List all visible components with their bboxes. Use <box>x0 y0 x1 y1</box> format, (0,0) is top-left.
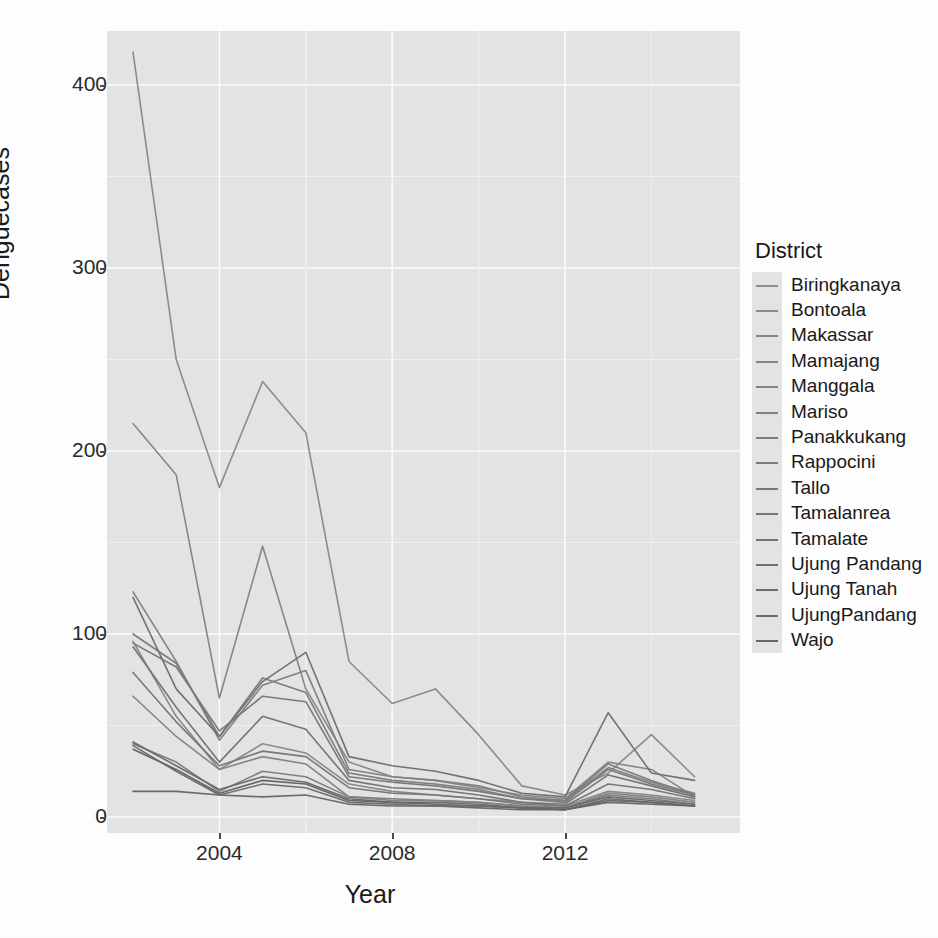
legend-line-icon <box>752 526 782 551</box>
legend-line-icon <box>752 374 782 399</box>
y-tick-mark <box>100 451 106 453</box>
x-axis-title: Year <box>0 880 740 909</box>
legend-line-icon <box>752 501 782 526</box>
legend-item[interactable]: Rappocini <box>752 450 938 475</box>
legend-item[interactable]: Mariso <box>752 399 938 424</box>
y-tick-label: 400 <box>0 72 121 96</box>
legend-item[interactable]: Tamalate <box>752 526 938 551</box>
legend-item-label: UjungPandang <box>791 604 917 626</box>
legend-item[interactable]: Biringkanaya <box>752 272 938 297</box>
legend-items: BiringkanayaBontoalaMakassarMamajangMang… <box>752 272 938 653</box>
legend-item[interactable]: Manggala <box>752 374 938 399</box>
chart-page: Denguecases 0100200300400 200420082012 Y… <box>0 0 938 938</box>
y-tick-mark <box>100 268 106 270</box>
legend-item-label: Bontoala <box>791 299 866 321</box>
legend-line-icon <box>752 272 782 297</box>
legend-item[interactable]: Mamajang <box>752 348 938 373</box>
legend-line-icon <box>752 627 782 652</box>
x-tick-mark <box>219 833 221 839</box>
y-tick-label: 0 <box>0 804 121 828</box>
legend-item[interactable]: Panakkukang <box>752 424 938 449</box>
series-line <box>133 672 695 806</box>
legend-item-label: Ujung Tanah <box>791 578 897 600</box>
legend-item[interactable]: Bontoala <box>752 297 938 322</box>
line-chart-svg <box>107 31 740 833</box>
y-tick-label: 300 <box>0 255 121 279</box>
legend-line-icon <box>752 450 782 475</box>
legend-item[interactable]: Tamalanrea <box>752 501 938 526</box>
legend-item-label: Mariso <box>791 401 848 423</box>
legend-line-icon <box>752 424 782 449</box>
legend-item-label: Wajo <box>791 629 834 651</box>
legend-item-label: Tallo <box>791 477 830 499</box>
legend-item[interactable]: Tallo <box>752 475 938 500</box>
legend-item-label: Manggala <box>791 375 874 397</box>
legend-line-icon <box>752 348 782 373</box>
x-tick-mark <box>565 833 567 839</box>
legend-line-icon <box>752 475 782 500</box>
y-tick-label: 100 <box>0 621 121 645</box>
legend-line-icon <box>752 323 782 348</box>
legend-title: District <box>755 238 938 264</box>
legend-line-icon <box>752 602 782 627</box>
legend-item-label: Mamajang <box>791 350 880 372</box>
y-tick-mark <box>100 817 106 819</box>
legend-item-label: Makassar <box>791 324 873 346</box>
plot-panel <box>107 31 740 833</box>
y-tick-label: 200 <box>0 438 121 462</box>
x-tick-label: 2008 <box>369 841 416 865</box>
legend-line-icon <box>752 577 782 602</box>
legend-item-label: Tamalate <box>791 528 868 550</box>
series-line <box>133 641 695 806</box>
legend-item[interactable]: Wajo <box>752 627 938 652</box>
legend-item-label: Rappocini <box>791 451 876 473</box>
legend: District BiringkanayaBontoalaMakassarMam… <box>752 238 938 653</box>
legend-item[interactable]: UjungPandang <box>752 602 938 627</box>
x-tick-label: 2004 <box>196 841 243 865</box>
legend-item-label: Ujung Pandang <box>791 553 922 575</box>
y-tick-mark <box>100 85 106 87</box>
legend-item[interactable]: Ujung Pandang <box>752 551 938 576</box>
legend-item-label: Panakkukang <box>791 426 906 448</box>
legend-line-icon <box>752 399 782 424</box>
y-tick-mark <box>100 634 106 636</box>
legend-item-label: Biringkanaya <box>791 274 901 296</box>
legend-item-label: Tamalanrea <box>791 502 890 524</box>
x-tick-mark <box>392 833 394 839</box>
x-tick-label: 2012 <box>542 841 589 865</box>
legend-line-icon <box>752 297 782 322</box>
legend-item[interactable]: Ujung Tanah <box>752 577 938 602</box>
legend-line-icon <box>752 551 782 576</box>
legend-item[interactable]: Makassar <box>752 323 938 348</box>
